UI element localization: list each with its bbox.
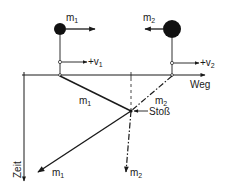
- axes: Weg Zeit: [12, 72, 210, 181]
- v1-label: +v1: [88, 56, 103, 68]
- worldline-m2-after-label: m2: [130, 167, 142, 179]
- worldline-m1-before-label: m1: [79, 95, 91, 107]
- m1-velocity-origin: [58, 60, 61, 63]
- worldline-m2-after: [126, 111, 131, 172]
- m2-label: m2: [143, 12, 155, 24]
- m2-velocity-origin: [170, 61, 173, 64]
- body-m1: m1 +v1: [54, 12, 103, 76]
- ball-m1-icon: [54, 23, 66, 35]
- body-m2: m2 +v2: [143, 12, 215, 76]
- collision-diagram: Weg Zeit m1 +v1 m2 +v2 m1 m2 Stoß m1 m2: [0, 0, 226, 188]
- m1-label: m1: [66, 12, 78, 24]
- m2-start-point: [171, 74, 174, 77]
- worldline-m1-after: [38, 111, 131, 172]
- worldline-m1-after-label: m1: [52, 167, 64, 179]
- zeit-label: Zeit: [12, 161, 23, 178]
- ball-m2-icon: [163, 20, 181, 38]
- worldline-m1-before: [60, 76, 131, 111]
- collision-label: Stoß: [149, 106, 170, 117]
- v2-label: +v2: [200, 57, 215, 69]
- weg-label: Weg: [190, 79, 210, 90]
